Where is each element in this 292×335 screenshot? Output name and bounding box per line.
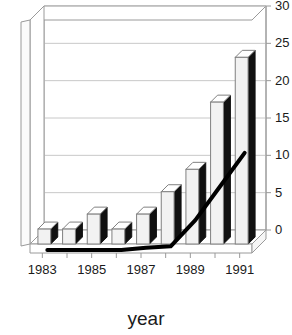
y-tick-label: 30 <box>275 0 289 13</box>
y-tick-label: 15 <box>275 110 289 125</box>
x-axis-title: year <box>128 308 166 329</box>
y-tick-label: 25 <box>275 35 289 50</box>
x-tick-label: 1987 <box>127 262 156 277</box>
y-tick-label: 0 <box>275 222 282 237</box>
x-tick-label: 1989 <box>176 262 205 277</box>
y-tick-label: 5 <box>275 185 282 200</box>
x-tick-label: 1985 <box>77 262 106 277</box>
bar-chart: 051015202530 19831985198719891991 year <box>0 0 292 335</box>
y-tick-label: 10 <box>275 147 289 162</box>
x-tick-label: 1991 <box>225 262 254 277</box>
x-tick-label: 1983 <box>28 262 57 277</box>
plot-left-wall <box>21 6 44 246</box>
y-tick-label: 20 <box>275 73 289 88</box>
chart-container: 051015202530 19831985198719891991 year <box>0 0 292 335</box>
